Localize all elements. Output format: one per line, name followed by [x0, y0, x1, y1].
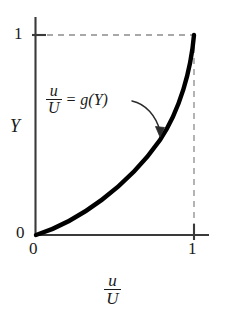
annotation-equals-expression: = g(Y)	[62, 92, 108, 108]
x-axis-title-fraction: u U	[104, 272, 120, 308]
velocity-profile-figure: 1 0 0 1 Y u U u U = g(Y)	[0, 0, 225, 319]
annotation-fraction: u U	[46, 83, 62, 117]
x-axis-title-denominator: U	[104, 290, 120, 307]
x-axis-tick-label-1: 1	[188, 240, 197, 257]
x-axis-tick-label-0: 0	[29, 240, 38, 257]
y-axis-tick-label-0: 0	[16, 224, 25, 241]
y-axis-tick-label-1: 1	[14, 25, 23, 42]
velocity-profile-curve	[36, 35, 194, 235]
x-axis-title-numerator: u	[104, 272, 120, 290]
annotation-numerator: u	[46, 83, 62, 100]
annotation-denominator: U	[46, 100, 62, 116]
y-axis-title: Y	[10, 117, 20, 135]
curve-equation-annotation: u U = g(Y)	[46, 83, 108, 117]
x-axis-title: u U	[0, 272, 225, 308]
